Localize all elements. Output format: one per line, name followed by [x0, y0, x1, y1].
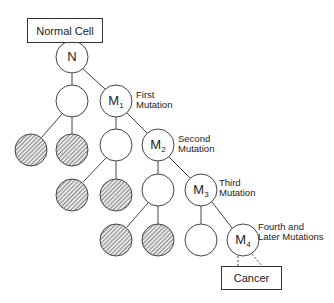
annotation-third-mutation: Third Mutation	[219, 178, 255, 198]
annotation-second-mutation: Second Mutation	[178, 134, 214, 154]
node-m1-label: M1	[100, 94, 132, 113]
edge-m2-m3	[169, 157, 190, 178]
node-c-empty	[142, 174, 174, 206]
annotation-fourth-later-mutations: Fourth and Later Mutations	[258, 222, 323, 242]
normal-cell-label: Normal Cell	[36, 25, 93, 37]
node-hatched-3	[56, 179, 88, 211]
node-hatched-1	[15, 134, 47, 166]
node-m3-label: M3	[185, 183, 217, 202]
node-m4-label: M4	[227, 233, 259, 252]
node-n-label: N	[56, 50, 88, 64]
node-m2-label: M2	[142, 138, 174, 157]
edge-m4-cancer-dashed-2	[252, 254, 262, 266]
node-d-empty	[185, 224, 217, 256]
cancer-label: Cancer	[234, 272, 269, 284]
edge-c-h5	[127, 203, 148, 227]
node-hatched-2	[56, 134, 88, 166]
node-a-empty	[56, 85, 88, 117]
edge-m1-m2	[127, 113, 147, 133]
node-b-empty	[100, 129, 132, 161]
edge-m3-m4	[212, 202, 232, 228]
node-hatched-4	[100, 179, 132, 211]
normal-cell-box: Normal Cell	[27, 18, 103, 43]
annotation-first-mutation: First Mutation	[136, 90, 172, 110]
node-hatched-5	[100, 224, 132, 256]
cancer-box: Cancer	[221, 266, 282, 290]
edge-a-h1	[42, 114, 62, 137]
node-hatched-6	[142, 224, 174, 256]
edge-b-h3	[83, 158, 106, 182]
edge-n-m1	[83, 69, 105, 89]
